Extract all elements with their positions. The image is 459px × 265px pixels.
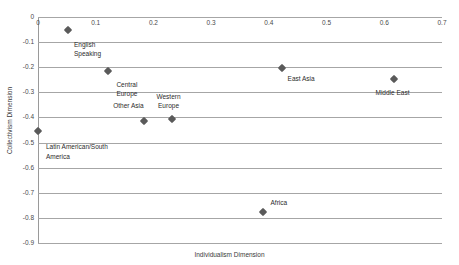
data-point-marker[interactable] xyxy=(258,208,266,216)
y-axis-tick-label: -0.1 xyxy=(23,39,34,46)
data-point-label: Central Europe xyxy=(116,80,137,99)
gridline-y xyxy=(38,243,442,244)
y-axis-tick-label: -0.5 xyxy=(23,139,34,146)
y-axis-tick-label: -0.4 xyxy=(23,114,34,121)
y-axis-tick-label: -0.9 xyxy=(23,240,34,247)
x-axis-tick-label: 0.2 xyxy=(149,20,158,27)
y-axis-tick-label: -0.8 xyxy=(23,215,34,222)
y-axis-tick-label: -0.7 xyxy=(23,190,34,197)
gridline-y xyxy=(38,218,442,219)
x-axis-tick-label: 0.6 xyxy=(380,20,389,27)
y-axis-title: Collectivism Dimension xyxy=(6,56,13,186)
x-axis-tick-label: 0.3 xyxy=(207,20,216,27)
x-axis-title: Individualism Dimension xyxy=(0,251,459,258)
x-axis-tick-label: 0.1 xyxy=(91,20,100,27)
data-point-marker[interactable] xyxy=(389,75,397,83)
data-point-label: East Asia xyxy=(288,74,315,83)
x-axis-tick-label: 0 xyxy=(36,20,40,27)
y-axis-tick-label: 0 xyxy=(30,14,34,21)
data-point-label: English Speaking xyxy=(74,40,101,59)
data-point-marker[interactable] xyxy=(277,64,285,72)
gridline-y xyxy=(38,117,442,118)
y-axis-tick-label: -0.3 xyxy=(23,89,34,96)
scatter-chart: 0-0.1-0.2-0.3-0.4-0.5-0.6-0.7-0.8-0.900.… xyxy=(0,0,459,265)
gridline-y xyxy=(38,67,442,68)
x-axis-tick-label: 0.7 xyxy=(437,20,446,27)
plot-area: 0-0.1-0.2-0.3-0.4-0.5-0.6-0.7-0.8-0.900.… xyxy=(38,17,442,243)
data-point-label: Africa xyxy=(271,198,288,207)
data-point-label: Middle East xyxy=(376,88,410,97)
x-axis-tick-label: 0.5 xyxy=(322,20,331,27)
data-point-label: Latin American/South America xyxy=(46,142,108,161)
data-point-label: Western Europe xyxy=(156,92,180,111)
y-axis-tick-label: -0.6 xyxy=(23,164,34,171)
data-point-label: Other Asia xyxy=(113,101,143,110)
data-point-marker[interactable] xyxy=(168,115,176,123)
y-axis-tick-label: -0.2 xyxy=(23,64,34,71)
x-axis-tick-label: 0.4 xyxy=(264,20,273,27)
data-point-marker[interactable] xyxy=(34,127,42,135)
gridline-y xyxy=(38,193,442,194)
gridline-y xyxy=(38,17,442,18)
data-point-marker[interactable] xyxy=(64,26,72,34)
gridline-y xyxy=(38,168,442,169)
